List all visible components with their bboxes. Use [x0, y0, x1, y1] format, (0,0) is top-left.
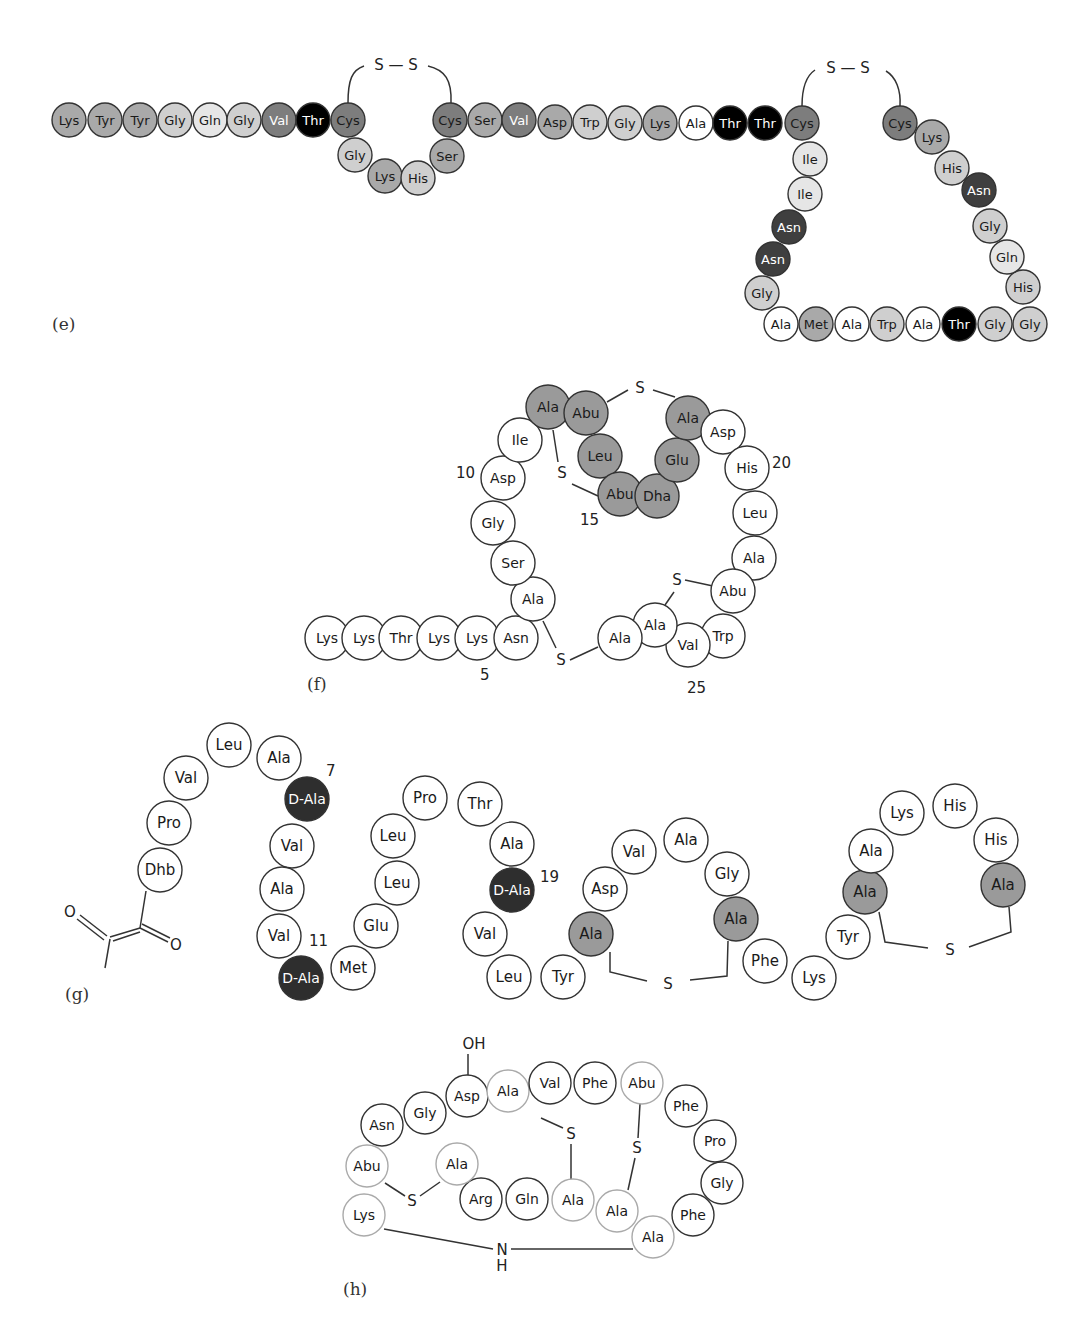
residue-label: Met [804, 317, 828, 332]
residue-label: Ala [771, 317, 791, 332]
residue-met: Met [331, 946, 375, 990]
residue-gly: Gly [978, 307, 1012, 341]
bond-line [653, 390, 675, 397]
bond-line [570, 647, 598, 660]
residue-label: Phe [680, 1207, 706, 1223]
residue-lys: Lys [880, 791, 924, 835]
position-number: 15 [580, 511, 599, 529]
residue-label: Lys [466, 630, 488, 646]
bond-line [969, 907, 1011, 947]
residue-label: Ile [802, 152, 817, 167]
residue-gln: Gln [193, 103, 227, 137]
residue-abu: Abu [346, 1145, 388, 1187]
bond-line [80, 915, 107, 936]
residue-abu: Abu [711, 569, 755, 613]
residue-label: Thr [467, 795, 494, 813]
residue-val: Val [529, 1062, 571, 1104]
residue-ala: Ala [526, 385, 570, 429]
residue-label: Thr [718, 116, 741, 131]
residue-met: Met [799, 307, 833, 341]
residue-label: Gly [413, 1105, 436, 1121]
residue-label: Ser [436, 149, 458, 164]
residue-label: Asp [710, 424, 736, 440]
residue-his: His [974, 818, 1018, 862]
residue-label: Ala [500, 835, 524, 853]
residue-ala: Ala [906, 307, 940, 341]
residue-ala: Ala [835, 307, 869, 341]
residue-label: Asn [967, 183, 991, 198]
residue-pro: Pro [147, 801, 191, 845]
residue-tyr: Tyr [826, 915, 870, 959]
residue-cys: Cys [785, 106, 819, 140]
bond-line [140, 891, 146, 928]
residue-label: Ala [853, 883, 877, 901]
residue-label: Ile [797, 187, 812, 202]
residue-asp: Asp [446, 1075, 488, 1117]
residue-label: Phe [673, 1098, 699, 1114]
residue-cys: Cys [331, 103, 365, 137]
bond-line [607, 390, 628, 402]
residue-ala: Ala [664, 818, 708, 862]
atom-symbol: S [672, 571, 682, 589]
residue-label: Gly [614, 116, 636, 131]
residue-label: Lys [650, 116, 671, 131]
residue-label: Trp [876, 317, 897, 332]
residue-ala: Ala [843, 870, 887, 914]
residue-ser: Ser [430, 139, 464, 173]
residue-label: Asp [543, 115, 567, 130]
panel-g: DhbProValLeuAlaD-AlaValAlaValD-AlaMetGlu… [64, 723, 1025, 1004]
residue-lys: Lys [915, 120, 949, 154]
residue-label: Asp [490, 470, 516, 486]
bond-line [541, 1118, 563, 1128]
residue-gly: Gly [227, 103, 261, 137]
residue-label: Lys [890, 804, 914, 822]
position-number: 11 [309, 932, 328, 950]
bond-line [665, 592, 674, 605]
bond-line [420, 1182, 440, 1196]
peptide-structures-diagram: LysTyrTyrGlyGlnGlyValThrCysGlyLysHisSerC… [0, 0, 1081, 1331]
residue-label: Tyr [836, 928, 860, 946]
residue-val: Val [164, 756, 208, 800]
panel-label: (e) [52, 314, 75, 334]
residue-ala: Ala [764, 307, 798, 341]
residue-label: Lys [353, 630, 375, 646]
bond-line [105, 939, 110, 968]
residue-label: Gly [710, 1175, 733, 1191]
residue-asn: Asn [962, 173, 996, 207]
residue-label: Tyr [130, 113, 151, 128]
residue-ala: Ala [981, 863, 1025, 907]
residue-label: Cys [888, 116, 912, 131]
residue-label: Ala [859, 842, 883, 860]
residue-leu: Leu [578, 434, 622, 478]
residue-label: Gln [515, 1191, 539, 1207]
residue-thr: Thr [296, 103, 330, 137]
residue-label: Ala [913, 317, 933, 332]
residue-label: Ala [497, 1083, 519, 1099]
residue-label: His [736, 460, 758, 476]
panel-h: AsnGlyAspAlaValPheAbuPheProGlyPheAlaAlaA… [343, 1035, 743, 1299]
residue-label: Pro [704, 1133, 726, 1149]
residue-val: Val [502, 103, 536, 137]
residue-his: His [725, 446, 769, 490]
residue-label: Glu [363, 917, 388, 935]
residue-label: Val [623, 843, 645, 861]
residue-label: Ala [991, 876, 1015, 894]
residue-leu: Leu [371, 814, 415, 858]
panel-label: (g) [65, 984, 89, 1004]
atom-symbol: S [407, 1192, 417, 1210]
atom-symbol: O [170, 936, 182, 954]
residue-ala: Ala [490, 822, 534, 866]
residue-label: Pro [413, 789, 437, 807]
residue-ala: Ala [257, 736, 301, 780]
residue-label: Thr [947, 317, 970, 332]
position-number: 7 [326, 762, 336, 780]
bond-line [543, 621, 556, 648]
residue-ala: Ala [679, 106, 713, 140]
residue-ile: Ile [788, 177, 822, 211]
residue-label: Pro [157, 814, 181, 832]
residue-label: Abu [628, 1075, 655, 1091]
residue-label: Ala [537, 399, 559, 415]
residue-dhb: Dhb [138, 848, 182, 892]
residue-label: Leu [380, 827, 407, 845]
panel-label: (f) [307, 674, 327, 694]
